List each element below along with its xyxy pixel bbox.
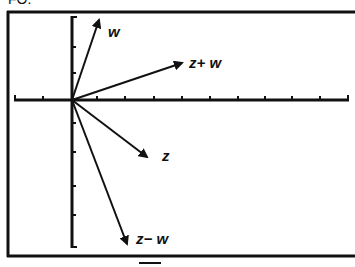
screen-frame <box>7 11 355 257</box>
label-z-minus-w: z− w <box>135 230 169 247</box>
vector-z-plus-w: z+ w <box>72 54 222 100</box>
vector-diagram: w z+ w z z− w <box>0 0 355 267</box>
vector-z-minus-w: z− w <box>72 100 169 247</box>
y-axis <box>72 16 77 248</box>
x-axis <box>14 95 349 100</box>
vector-z: z <box>72 100 170 164</box>
label-z-plus-w: z+ w <box>188 54 222 71</box>
label-z: z <box>161 147 170 164</box>
label-w: w <box>108 23 121 40</box>
vector-w: w <box>72 20 121 100</box>
